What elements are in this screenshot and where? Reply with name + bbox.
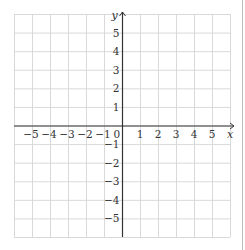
y-tick-label: −5 [104,213,119,224]
x-tick-label: 4 [191,129,198,140]
y-tick-label: −2 [104,158,119,169]
y-tick-label: 2 [113,83,120,94]
x-axis-label: x [227,129,233,140]
page-edge-divider [242,0,243,250]
y-tick-label: 1 [113,102,120,113]
y-tick-label: 5 [113,28,120,39]
x-tick-label: −4 [41,129,56,140]
coordinate-grid [0,0,245,250]
y-tick-label: −3 [104,176,119,187]
x-tick-label: 1 [137,129,144,140]
x-tick-label: −2 [77,129,92,140]
x-tick-label: 5 [209,129,216,140]
y-tick-label: 3 [113,65,120,76]
x-tick-label: 3 [173,129,180,140]
x-tick-label: −3 [59,129,74,140]
y-tick-label: −4 [104,195,119,206]
y-tick-label: 4 [113,46,120,57]
x-tick-label: −5 [23,129,38,140]
coordinate-grid-figure: −5−4−3−2−11234554321−1−2−3−4−5 x y 0 [0,0,245,250]
y-axis-label: y [112,10,118,21]
y-tick-label: −1 [104,139,119,150]
origin-label: 0 [114,129,121,140]
x-tick-label: 2 [155,129,162,140]
